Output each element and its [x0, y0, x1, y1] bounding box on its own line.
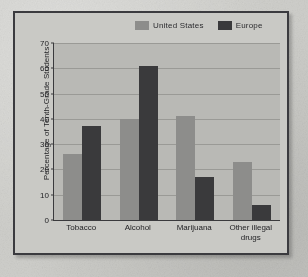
x-axis-labels: TobaccoAlcoholMarijuanaOther illegaldrug… — [53, 223, 279, 243]
bars-container — [54, 43, 280, 220]
legend-entry-europe: Europe — [218, 21, 263, 30]
x-axis-label-line: drugs — [223, 233, 280, 243]
plot-area: 706050403020100 — [53, 43, 280, 221]
chart-figure-frame: United States Europe Percentage of Tenth… — [13, 11, 289, 255]
chart-legend: United States Europe — [135, 18, 263, 32]
bar-united-states-other-illegal-drugs — [233, 162, 252, 220]
x-axis-label-alcohol: Alcohol — [110, 223, 167, 243]
x-axis-label-tobacco: Tobacco — [53, 223, 110, 243]
x-axis-label-other-illegal-drugs: Other illegaldrugs — [223, 223, 280, 243]
bar-group — [224, 43, 281, 220]
bar-united-states-alcohol — [120, 119, 139, 220]
x-axis-label-line: Alcohol — [125, 223, 151, 232]
bar-europe-other-illegal-drugs — [252, 205, 271, 220]
y-axis-title: Percentage of Tenth-Grade Students — [42, 34, 51, 194]
legend-swatch-united-states-icon — [135, 21, 149, 30]
bar-group — [54, 43, 111, 220]
bar-group — [167, 43, 224, 220]
x-axis-label-line: Tobacco — [66, 223, 96, 232]
legend-label-europe: Europe — [236, 21, 263, 30]
legend-label-united-states: United States — [153, 21, 204, 30]
bar-group — [111, 43, 168, 220]
legend-swatch-europe-icon — [218, 21, 232, 30]
bar-united-states-tobacco — [63, 154, 82, 220]
scanned-page-background: United States Europe Percentage of Tenth… — [0, 0, 308, 277]
bar-europe-marijuana — [195, 177, 214, 220]
y-axis-tick-label: 0 — [45, 216, 49, 225]
bar-united-states-marijuana — [176, 116, 195, 220]
legend-entry-united-states: United States — [135, 21, 204, 30]
bar-europe-alcohol — [139, 66, 158, 220]
x-axis-label-marijuana: Marijuana — [166, 223, 223, 243]
x-axis-label-line: Marijuana — [177, 223, 212, 232]
x-axis-label-line: Other illegal — [229, 223, 272, 232]
bar-europe-tobacco — [82, 126, 101, 220]
